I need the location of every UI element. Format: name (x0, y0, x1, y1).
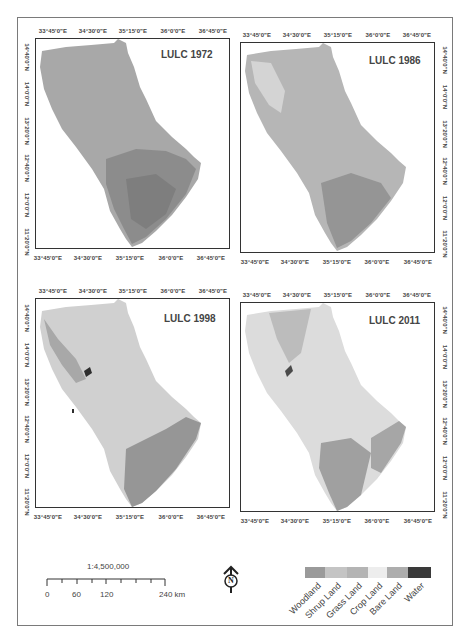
lon-tick-label: 36°0'0"E (366, 292, 391, 298)
lat-tick-label: 11°20'0"N (442, 491, 448, 518)
panel-title: LULC 2011 (369, 315, 420, 326)
lon-tick-label: 33°45'0"E (243, 292, 271, 298)
legend: Woodland Shrup Land Grass Land Crop Land… (305, 567, 435, 627)
lon-tick-label: 33°45'0"E (34, 255, 62, 261)
lon-tick-label: 34°30'0"E (74, 514, 102, 520)
lat-tick-label: 14°0'0"N (24, 82, 30, 106)
lon-tick-label: 33°45'0"E (241, 518, 269, 524)
lon-tick-label: 36°45'0"E (199, 288, 227, 294)
basin-map-1972 (36, 39, 230, 249)
lon-tick-label: 35°15'0"E (116, 255, 144, 261)
lon-tick-label: 35°15'0"E (119, 288, 147, 294)
map-frame: LULC 1986 (240, 42, 435, 253)
legend-swatch-woodland (305, 567, 325, 578)
lon-tick-label: 34°30'0"E (283, 32, 311, 38)
scale-ruler (45, 576, 175, 588)
lon-tick-label: 36°0'0"E (366, 32, 391, 38)
lat-tick-label: 12°0'0"N (442, 196, 448, 220)
scale-label-0: 0 (45, 590, 49, 599)
lon-tick-label: 36°45'0"E (199, 28, 227, 34)
legend-swatch-crop-land (368, 567, 387, 578)
lat-tick-label: 14°40'0"N (442, 46, 448, 74)
basin-map-1986 (241, 43, 435, 253)
map-frame: LULC 1972 (35, 38, 230, 249)
lat-tick-label: 14°40'0"N (24, 304, 30, 332)
lat-tick-label: 13°20'0"N (442, 380, 448, 408)
legend-label-water: Water (403, 580, 427, 604)
scale-label-120: 120 (100, 590, 113, 599)
lon-tick-label: 36°0'0"E (161, 288, 186, 294)
lon-tick-label: 33°45'0"E (243, 32, 271, 38)
lat-tick-label: 14°40'0"N (24, 43, 30, 71)
lon-tick-label: 36°45'0"E (403, 292, 431, 298)
lon-tick-label: 35°15'0"E (323, 259, 351, 265)
north-arrow: N (221, 565, 241, 595)
lon-tick-label: 36°0'0"E (159, 514, 184, 520)
lat-tick-label: 12°40'0"N (24, 154, 30, 182)
legend-swatch-shrup-land (325, 567, 347, 578)
map-frame: LULC 2011 (240, 302, 435, 512)
lon-tick-label: 34°30'0"E (283, 292, 311, 298)
lon-tick-label: 35°15'0"E (119, 28, 147, 34)
panel-title: LULC 1972 (161, 49, 213, 60)
scale-label-60: 60 (72, 590, 81, 599)
lon-tick-label: 36°45'0"E (197, 255, 225, 261)
lon-tick-label: 34°30'0"E (79, 28, 107, 34)
lat-tick-label: 12°0'0"N (24, 454, 30, 478)
lon-tick-label: 36°45'0"E (403, 32, 431, 38)
lon-tick-label: 35°15'0"E (324, 292, 352, 298)
lon-tick-label: 33°45'0"E (34, 514, 62, 520)
lat-tick-label: 13°20'0"N (24, 378, 30, 406)
lon-tick-label: 35°15'0"E (324, 32, 352, 38)
lon-tick-label: 36°45'0"E (197, 514, 225, 520)
lon-tick-label: 33°45'0"E (241, 259, 269, 265)
lat-tick-label: 11°20'0"N (442, 230, 448, 257)
lon-tick-label: 33°45'0"E (39, 288, 67, 294)
legend-swatch-grass-land (347, 567, 368, 578)
lat-tick-label: 12°40'0"N (24, 415, 30, 443)
lon-tick-label: 36°0'0"E (365, 259, 390, 265)
scale-bar: 1:4,500,000 (45, 560, 175, 590)
basin-map-2011 (241, 303, 435, 512)
lat-tick-label: 14°40'0"N (442, 306, 448, 334)
lon-tick-label: 33°45'0"E (39, 28, 67, 34)
lon-tick-label: 34°30'0"E (281, 259, 309, 265)
lat-tick-label: 12°0'0"N (24, 193, 30, 217)
lon-tick-label: 34°30'0"E (79, 288, 107, 294)
lon-tick-label: 34°30'0"E (281, 518, 309, 524)
scale-label-240: 240 km (159, 590, 185, 599)
lon-tick-label: 36°45'0"E (404, 259, 432, 265)
lat-tick-label: 11°20'0"N (24, 228, 30, 255)
map-frame: LULC 1998 (35, 298, 230, 508)
lon-tick-label: 35°15'0"E (116, 514, 144, 520)
basin-map-1998 (36, 299, 230, 508)
lat-tick-label: 14°0'0"N (24, 343, 30, 367)
lon-tick-label: 36°0'0"E (365, 518, 390, 524)
lat-tick-label: 12°0'0"N (442, 456, 448, 480)
lon-tick-label: 35°15'0"E (323, 518, 351, 524)
lat-tick-label: 11°20'0"N (24, 488, 30, 515)
lon-tick-label: 36°0'0"E (159, 255, 184, 261)
lat-tick-label: 13°20'0"N (24, 117, 30, 145)
lon-tick-label: 34°30'0"E (74, 255, 102, 261)
legend-swatch-water (408, 567, 431, 578)
legend-swatch-bare-land (387, 567, 408, 578)
lat-tick-label: 14°0'0"N (442, 345, 448, 369)
scale-ratio: 1:4,500,000 (87, 562, 129, 571)
lat-tick-label: 14°0'0"N (442, 85, 448, 109)
lat-tick-label: 13°20'0"N (442, 120, 448, 148)
panel-title: LULC 1986 (369, 55, 421, 66)
lat-tick-label: 12°40'0"N (442, 157, 448, 185)
lat-tick-label: 12°40'0"N (442, 417, 448, 445)
lon-tick-label: 36°45'0"E (404, 518, 432, 524)
lon-tick-label: 36°0'0"E (161, 28, 186, 34)
north-letter: N (227, 577, 235, 585)
panel-title: LULC 1998 (164, 313, 216, 324)
